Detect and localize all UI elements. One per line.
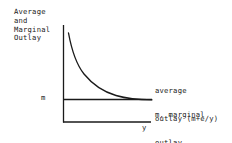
axes-group	[63, 25, 151, 123]
marginal-outlay-label-line1: m, marginal	[155, 110, 205, 119]
marginal-outlay-label: m, marginal outlay	[155, 92, 205, 143]
average-outlay-curve	[69, 33, 153, 100]
chart-figure: Average and Marginal Outlay m y average …	[0, 0, 232, 143]
marginal-outlay-label-line2: outlay	[155, 138, 205, 143]
